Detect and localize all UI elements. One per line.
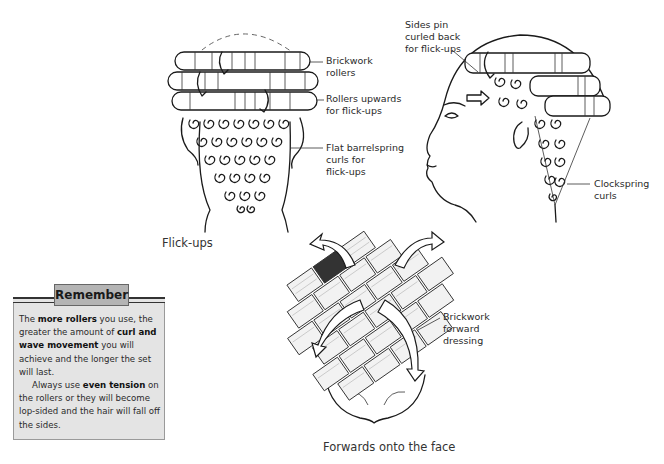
remember-body: The more rollers you use, the greater th…: [19, 313, 164, 432]
label-brickwork-forward: Brickwork forward dressing: [443, 311, 490, 347]
remember-paragraph-1: The more rollers you use, the greater th…: [19, 313, 164, 379]
caption-forwards: Forwards onto the face: [323, 440, 455, 454]
remember-box: Remember The more rollers you use, the g…: [13, 297, 165, 440]
remember-paragraph-2: Always use even tension on the rollers o…: [19, 379, 164, 432]
remember-title: Remember: [54, 284, 129, 306]
